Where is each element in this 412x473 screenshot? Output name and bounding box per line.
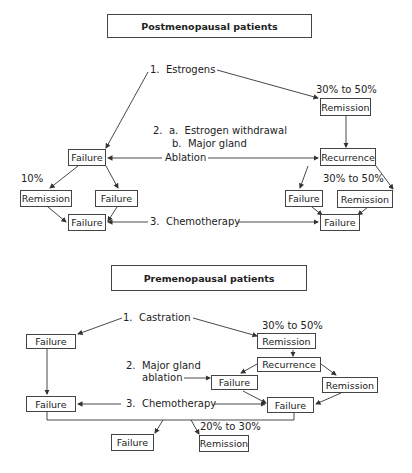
pre-step2b-ablation: ablation (142, 372, 183, 384)
post-failure-mid-box: Failure (95, 190, 138, 207)
post-step1-estrogens: 1. Estrogens (150, 64, 215, 76)
pre-failure-left-box: Failure (26, 396, 76, 412)
post-step2a: 2. a. Estrogen withdrawal (153, 125, 287, 137)
post-recurrence-box: Recurrence (320, 148, 376, 166)
post-pct-right: 30% to 50% (323, 173, 384, 185)
post-failure-left-box: Failure (68, 149, 106, 166)
pre-pct-top: 30% to 50% (262, 320, 323, 332)
post-failure-bottom-left-box: Failure (68, 214, 106, 231)
post-step3-chemotherapy: 3. Chemotherapy (150, 216, 240, 228)
post-failure-bottom-right-box: Failure (320, 214, 360, 231)
pre-failure-bottom-box: Failure (111, 434, 154, 451)
post-failure-right-box: Failure (285, 190, 323, 207)
pre-title-box: Premenopausal patients (111, 265, 307, 291)
pre-step3-chemotherapy: 3. Chemotherapy (126, 398, 216, 410)
post-pct-top: 30% to 50% (316, 84, 377, 96)
pre-remission-right-box: Remission (322, 377, 378, 393)
post-step2c-ablation: Ablation (165, 152, 206, 164)
post-remission-right-box: Remission (337, 190, 393, 208)
pre-remission-bottom-box: Remission (199, 435, 249, 452)
post-step2b: b. Major gland (172, 138, 247, 150)
pre-recurrence-box: Recurrence (257, 357, 321, 372)
post-remission-left-box: Remission (20, 190, 72, 207)
pre-step2a: 2. Major gland (126, 360, 201, 372)
pre-remission-top-box: Remission (257, 333, 316, 349)
post-pct-left: 10% (21, 173, 43, 185)
pre-failure-center-box: Failure (267, 397, 314, 413)
post-title-box: Postmenopausal patients (107, 14, 312, 38)
pre-failure-mid-box: Failure (211, 375, 258, 390)
pre-pct-bottom: 20% to 30% (200, 421, 261, 433)
post-remission-top-box: Remission (320, 98, 371, 116)
pre-failure-top-left-box: Failure (26, 334, 76, 349)
pre-step1-castration: 1. Castration (123, 312, 191, 324)
